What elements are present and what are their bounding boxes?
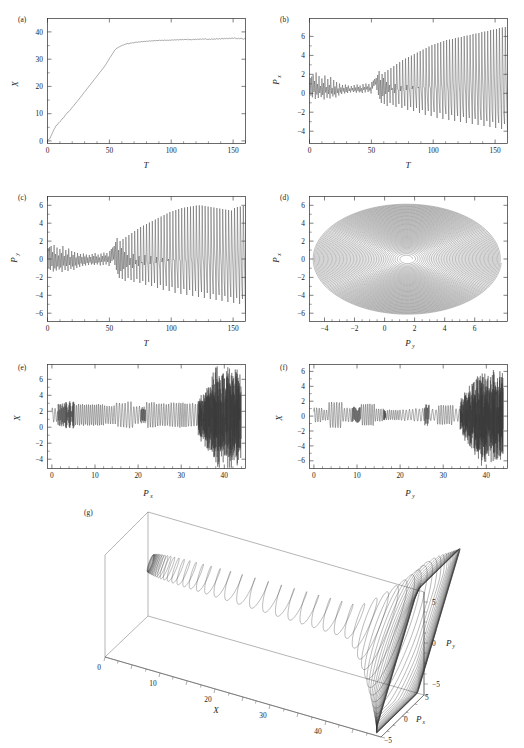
panel-a-tag: (a): [18, 15, 27, 24]
svg-text:−6: −6: [35, 309, 43, 318]
svg-text:0: 0: [312, 471, 316, 480]
svg-text:0: 0: [404, 715, 408, 724]
svg-text:20: 20: [36, 82, 44, 91]
panel-e-tag: (e): [18, 363, 27, 372]
svg-text:150: 150: [228, 146, 239, 155]
svg-text:0: 0: [50, 471, 54, 480]
svg-text:50: 50: [106, 146, 114, 155]
panel-b-ylabel-sub: x: [276, 75, 282, 79]
svg-text:6: 6: [301, 367, 305, 376]
panel-d-xlabel-sub: y: [411, 343, 415, 349]
svg-text:0: 0: [39, 423, 43, 432]
svg-text:20: 20: [396, 471, 404, 480]
panel-b-trace: [310, 27, 508, 130]
panel-f-xlabel-sub: y: [411, 493, 415, 499]
panel-a: (a): [0, 0, 262, 178]
svg-text:−4: −4: [35, 291, 43, 300]
svg-text:30: 30: [36, 55, 44, 64]
panel-f-trace: [314, 370, 503, 466]
svg-text:100: 100: [428, 146, 439, 155]
panel-e-trace: [52, 366, 241, 467]
svg-text:0: 0: [46, 324, 50, 333]
panel-f-xlabel: P: [404, 488, 411, 498]
svg-text:30: 30: [440, 471, 448, 480]
svg-text:40: 40: [221, 471, 229, 480]
panel-g-pxlabel-sub: x: [421, 719, 425, 725]
svg-text:50: 50: [106, 324, 114, 333]
panel-g-pylabel: P: [445, 638, 452, 648]
svg-text:6: 6: [39, 375, 43, 384]
svg-text:2: 2: [39, 237, 43, 246]
svg-text:−2: −2: [297, 427, 305, 436]
svg-text:0: 0: [39, 137, 43, 146]
panel-e-ylabel: X: [12, 415, 22, 422]
svg-text:−2: −2: [35, 273, 43, 282]
svg-text:−2: −2: [351, 324, 359, 333]
svg-text:6: 6: [301, 32, 305, 41]
panel-g-tag: (g): [84, 508, 93, 517]
svg-text:0: 0: [383, 324, 387, 333]
svg-text:40: 40: [314, 727, 322, 736]
svg-text:150: 150: [228, 324, 239, 333]
panel-c-tag: (c): [18, 193, 27, 202]
svg-text:40: 40: [36, 28, 44, 37]
panel-g-xlabel: X: [212, 705, 219, 715]
panel-a-ylabel: X: [10, 81, 20, 88]
panel-d-ylabel: P: [271, 257, 281, 264]
panel-b-xlabel: T: [405, 160, 411, 170]
svg-text:0: 0: [308, 146, 312, 155]
panel-e-xlabel: P: [142, 488, 149, 498]
svg-text:0: 0: [97, 663, 101, 672]
svg-text:4: 4: [301, 382, 305, 391]
panel-c-trace: [48, 205, 246, 312]
panel-d-spiral: [313, 204, 501, 314]
svg-text:0: 0: [46, 146, 50, 155]
figure-panel-grid: (a): [0, 0, 524, 748]
svg-text:10: 10: [353, 471, 361, 480]
svg-text:−6: −6: [297, 456, 305, 465]
svg-text:6: 6: [39, 201, 43, 210]
panel-a-xlabel: T: [143, 160, 149, 170]
panel-d-tag: (d): [280, 193, 289, 202]
svg-text:4: 4: [443, 324, 447, 333]
panel-b-ylabel: P: [271, 79, 281, 86]
panel-f: (f): [262, 356, 524, 506]
svg-text:150: 150: [490, 146, 501, 155]
panel-c: (c): [0, 178, 262, 356]
panel-g: (g): [0, 500, 524, 748]
svg-text:4: 4: [301, 219, 305, 228]
panel-e-xlabel-sub: x: [149, 493, 153, 499]
svg-text:−2: −2: [297, 273, 305, 282]
svg-text:−2: −2: [297, 108, 305, 117]
svg-text:5: 5: [425, 693, 429, 702]
svg-text:−6: −6: [297, 309, 305, 318]
svg-text:40: 40: [483, 471, 491, 480]
svg-text:20: 20: [134, 471, 142, 480]
panel-a-tick-labels: 0 50 100 150 0 10 20 30 40: [36, 28, 239, 156]
svg-text:6: 6: [301, 201, 305, 210]
svg-text:−4: −4: [321, 324, 329, 333]
svg-text:−2: −2: [35, 439, 43, 448]
svg-text:2: 2: [39, 407, 43, 416]
panel-e: (e): [0, 356, 262, 506]
svg-text:2: 2: [301, 70, 305, 79]
panel-d-xlabel-group: P y: [404, 338, 415, 349]
panel-a-ticks: [48, 19, 246, 144]
panel-f-xlabel-group: P y: [404, 488, 415, 499]
panel-g-pxlabel: P: [415, 714, 422, 724]
panel-a-trace: [48, 38, 246, 141]
svg-text:−5: −5: [432, 680, 440, 689]
panel-b-ticks: [310, 19, 508, 144]
panel-c-ylabel-sub: y: [14, 253, 20, 257]
svg-text:2: 2: [301, 397, 305, 406]
panel-d-ylabel-group: P x: [271, 253, 282, 264]
svg-text:−4: −4: [297, 127, 305, 136]
svg-text:0: 0: [301, 255, 305, 264]
svg-text:−5: −5: [384, 736, 392, 745]
svg-text:50: 50: [368, 146, 376, 155]
svg-text:−4: −4: [35, 455, 43, 464]
panel-d-xlabel: P: [404, 338, 411, 348]
svg-text:20: 20: [204, 695, 212, 704]
panel-e-xlabel-group: P x: [142, 488, 153, 499]
svg-text:100: 100: [166, 324, 177, 333]
